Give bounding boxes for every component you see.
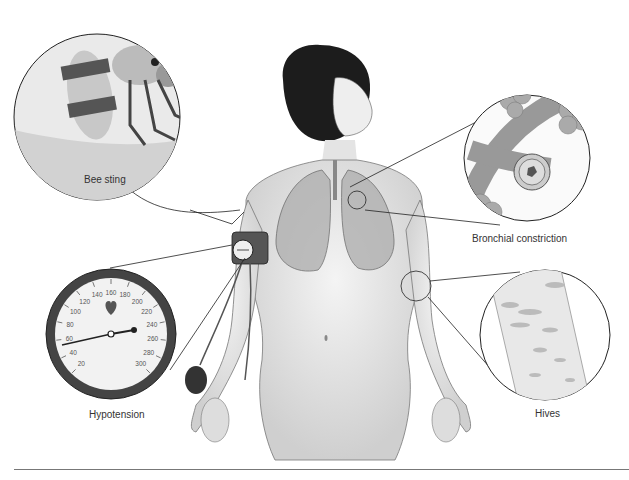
gauge-tick-label: 160 — [106, 289, 117, 296]
gauge-tick-label: 180 — [119, 291, 130, 298]
blood-pressure-gauge: 2040608010012014016018020022024026028030… — [46, 269, 176, 399]
gauge-tick-label: 200 — [132, 298, 143, 305]
gauge-tick-label: 220 — [141, 308, 152, 315]
label-hives: Hives — [535, 408, 560, 419]
hives-inset — [480, 265, 610, 410]
gauge-tick-label: 240 — [146, 321, 157, 328]
gauge-tick-label: 100 — [70, 308, 81, 315]
label-hypotension: Hypotension — [89, 409, 145, 420]
gauge-tick-label: 80 — [66, 321, 74, 328]
gauge-tick-label: 120 — [79, 298, 90, 305]
gauge-tick-label: 20 — [78, 360, 86, 367]
gauge-tick-label: 140 — [92, 291, 103, 298]
gauge-tick-label: 300 — [135, 360, 146, 367]
bulb-pump-icon — [185, 366, 207, 394]
label-bronchial-constriction: Bronchial constriction — [472, 233, 567, 244]
gauge-tick-label: 40 — [70, 349, 78, 356]
bronchial-inset — [462, 86, 592, 222]
caption-divider — [14, 469, 629, 470]
gauge-tick-label: 60 — [66, 335, 74, 342]
label-bee-sting: Bee sting — [84, 174, 126, 185]
gauge-tick-label: 260 — [147, 335, 158, 342]
gauge-tick-label: 280 — [143, 349, 154, 356]
